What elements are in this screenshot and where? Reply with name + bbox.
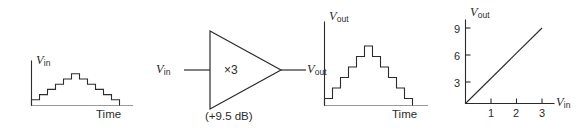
output-y-axis-label: Vout xyxy=(329,10,349,23)
amplifier-gain-label: ×3 xyxy=(224,63,238,77)
transfer-y-tick-label-3: 3 xyxy=(454,77,460,89)
amplifier-triangle xyxy=(210,31,281,109)
amplifier-gain-figure: Vin Time Vin ×3 (+9.5 dB) Vout xyxy=(0,0,583,130)
amplifier-panel: Vin ×3 (+9.5 dB) Vout xyxy=(148,0,308,130)
transfer-characteristic-panel: Vout 9 6 3 1 2 3 Vin xyxy=(436,0,583,130)
transfer-x-tick-label-3: 3 xyxy=(539,107,545,119)
amplifier-gain-db-label: (+9.5 dB) xyxy=(205,110,253,122)
amplifier-input-label: Vin xyxy=(156,63,170,76)
output-x-axis-label: Time xyxy=(392,108,417,120)
input-y-axis-label: Vin xyxy=(36,54,50,67)
transfer-x-tick-label-1: 1 xyxy=(488,107,494,119)
transfer-x-axis-label: Vin xyxy=(556,96,570,109)
transfer-y-tick-label-9: 9 xyxy=(454,23,460,35)
transfer-y-tick-label-6: 6 xyxy=(454,50,460,62)
input-staircase-trace xyxy=(32,74,120,106)
transfer-y-axis-label: Vout xyxy=(470,6,490,19)
output-waveform-panel: Vout Time xyxy=(308,0,436,130)
input-waveform-plot xyxy=(0,0,148,130)
output-staircase-trace xyxy=(325,46,413,106)
transfer-x-tick-label-2: 2 xyxy=(513,107,519,119)
input-x-axis-label: Time xyxy=(96,108,121,120)
input-waveform-panel: Vin Time xyxy=(0,0,148,130)
transfer-characteristic-plot xyxy=(436,0,583,130)
transfer-line-trace xyxy=(466,28,543,104)
